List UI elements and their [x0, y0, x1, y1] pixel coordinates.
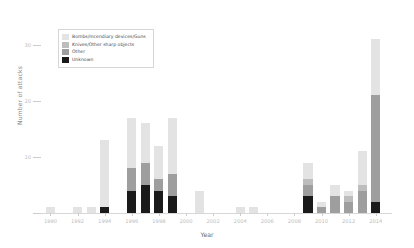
bar-segment — [330, 196, 339, 213]
y-tick-label-wrap: 10 — [0, 154, 41, 160]
bar-segment — [154, 146, 163, 180]
bar-2005 — [249, 207, 258, 213]
bar-segment — [344, 191, 353, 197]
bar-2014 — [371, 39, 380, 213]
bar-segment — [100, 140, 109, 207]
x-tick-label: 1994 — [90, 218, 120, 225]
x-tick-label: 2012 — [334, 218, 364, 225]
x-tick-label: 2006 — [252, 218, 282, 225]
x-tick-label: 2004 — [225, 218, 255, 225]
bar-segment — [87, 207, 96, 213]
bar-1992 — [73, 207, 82, 213]
x-tick-mark — [240, 213, 241, 216]
y-tick-label-wrap: 30 — [0, 42, 41, 48]
bar-segment — [358, 185, 367, 191]
bar-segment — [358, 151, 367, 185]
x-tick-label: 1996 — [117, 218, 147, 225]
bar-segment — [317, 207, 326, 213]
x-tick-mark — [132, 213, 133, 216]
y-axis-title: Number of attacks — [16, 41, 23, 151]
bar-segment — [127, 191, 136, 213]
x-tick-mark — [376, 213, 377, 216]
bar-segment — [141, 185, 150, 213]
x-tick-mark — [50, 213, 51, 216]
bar-segment — [317, 202, 326, 208]
bar-segment — [168, 174, 177, 196]
legend-label: Bombs/Incendiary devices/Guns — [72, 34, 146, 40]
bar-1990 — [46, 207, 55, 213]
legend-swatch-icon — [62, 34, 69, 40]
y-tick-label: 20 — [13, 98, 31, 104]
bar-2012 — [344, 191, 353, 213]
bar-segment — [154, 179, 163, 190]
bar-1998 — [154, 146, 163, 213]
bar-segment — [168, 196, 177, 213]
bar-segment — [344, 196, 353, 202]
x-tick-mark — [267, 213, 268, 216]
x-axis-line — [41, 213, 392, 214]
bar-segment — [141, 163, 150, 185]
bar-segment — [371, 39, 380, 95]
x-tick-label: 1998 — [144, 218, 174, 225]
x-tick-mark — [78, 213, 79, 216]
bar-segment — [371, 95, 380, 202]
bar-1996 — [127, 118, 136, 213]
bar-segment — [358, 191, 367, 213]
x-tick-label: 2014 — [361, 218, 391, 225]
y-tick-label: 10 — [13, 154, 31, 160]
legend-item: Bombs/Incendiary devices/Guns — [62, 34, 149, 41]
y-tick-label: 30 — [13, 42, 31, 48]
legend-item: Knives/Other sharp objects — [62, 41, 149, 48]
bar-2009 — [303, 163, 312, 213]
bar-segment — [73, 207, 82, 213]
bar-1999 — [168, 118, 177, 213]
x-tick-label: 1992 — [63, 218, 93, 225]
bar-segment — [100, 207, 109, 213]
bar-segment — [344, 202, 353, 213]
x-tick-label: 2002 — [198, 218, 228, 225]
legend-item: Other — [62, 49, 149, 56]
x-tick-mark — [159, 213, 160, 216]
bar-segment — [168, 118, 177, 174]
bar-2013 — [358, 151, 367, 213]
bar-2001 — [195, 191, 204, 213]
bar-1997 — [141, 123, 150, 213]
x-tick-label: 2010 — [307, 218, 337, 225]
x-tick-mark — [186, 213, 187, 216]
bar-segment — [127, 168, 136, 190]
x-tick-label: 2000 — [171, 218, 201, 225]
x-tick-label: 1990 — [35, 218, 65, 225]
bar-segment — [236, 207, 245, 213]
bar-1994 — [100, 140, 109, 213]
bar-segment — [46, 207, 55, 213]
x-tick-mark — [105, 213, 106, 216]
legend-item: Unknown — [62, 56, 149, 63]
bar-2011 — [330, 185, 339, 213]
bar-2004 — [236, 207, 245, 213]
legend-label: Unknown — [72, 57, 93, 63]
chart-figure: Number of attacks Year 102030 1990199219… — [0, 0, 414, 248]
bar-segment — [249, 207, 258, 213]
x-tick-mark — [349, 213, 350, 216]
legend-swatch-icon — [62, 42, 69, 48]
bar-segment — [127, 118, 136, 168]
bar-segment — [195, 191, 204, 213]
x-tick-mark — [213, 213, 214, 216]
legend-label: Knives/Other sharp objects — [72, 42, 134, 48]
bar-segment — [330, 185, 339, 196]
x-tick-label: 2008 — [279, 218, 309, 225]
bar-segment — [141, 123, 150, 162]
x-axis-title: Year — [0, 231, 414, 238]
bar-1993 — [87, 207, 96, 213]
bar-segment — [154, 191, 163, 213]
legend-label: Other — [72, 49, 85, 55]
legend-swatch-icon — [62, 49, 69, 55]
legend-swatch-icon — [62, 57, 69, 63]
bar-2010 — [317, 202, 326, 213]
chart-legend: Bombs/Incendiary devices/GunsKnives/Othe… — [58, 29, 154, 68]
x-tick-mark — [294, 213, 295, 216]
bar-segment — [303, 163, 312, 180]
y-tick-mark — [33, 213, 41, 214]
y-tick-label-wrap: 20 — [0, 98, 41, 104]
bar-segment — [303, 179, 312, 185]
